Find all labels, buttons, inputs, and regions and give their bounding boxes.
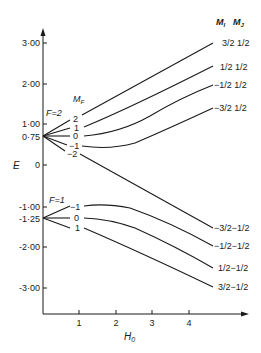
level-label: 1/2−1/2 (218, 263, 248, 273)
f2-label: F=2 (46, 108, 62, 118)
y-axis-arrow-icon (41, 28, 46, 36)
curve-mfm1 (82, 108, 213, 147)
level-label: 1/2 1/2 (220, 62, 248, 72)
level-label: −1/2 1/2 (214, 80, 247, 90)
x-axis-arrow-icon (241, 312, 249, 317)
x-tick-label: 3 (149, 318, 154, 328)
y-tick-labels: 3·00 2·00 1·00 0·75 0 -1·00 -1·25 -2·00 … (19, 38, 40, 293)
curve-mf2 (82, 43, 213, 115)
mj-header: MJ (233, 17, 245, 28)
mf-label: −1 (70, 202, 80, 212)
f2-fan (43, 120, 70, 151)
f1-fan (43, 206, 70, 228)
y-tick-label: 1·00 (22, 119, 40, 129)
y-ticks (43, 43, 47, 288)
y-tick-label: 2·00 (22, 79, 40, 89)
x-tick-label: 1 (76, 318, 81, 328)
x-ticks (79, 310, 189, 314)
y-tick-label: 0·75 (22, 132, 40, 142)
f1-mf-labels: −1 0 1 (70, 202, 80, 233)
x-tick-labels: 1 2 3 4 (76, 318, 191, 328)
f1-label: F=1 (49, 195, 65, 205)
y-tick-label: -1·00 (19, 202, 40, 212)
curve-mf1 (84, 66, 213, 127)
mf-label: −2 (67, 149, 77, 159)
upper-curves (80, 43, 213, 228)
y-tick-label: -2·00 (19, 242, 40, 252)
level-label: −1/2−1/2 (214, 241, 250, 251)
curve-f1-mf0 (84, 218, 213, 268)
x-axis-label: H0 (124, 331, 135, 343)
y-axis-label: E (13, 160, 20, 171)
energy-level-diagram: 3·00 2·00 1·00 0·75 0 -1·00 -1·25 -2·00 … (0, 0, 261, 353)
level-label: −3/2 1/2 (214, 103, 247, 113)
mf-header: MF (73, 94, 85, 105)
mf-label: 1 (75, 223, 80, 233)
y-tick-label: -3·00 (19, 283, 40, 293)
right-labels-upper: 3/2 1/2 1/2 1/2 −1/2 1/2 −3/2 1/2 (214, 38, 250, 113)
curve-mf0 (84, 85, 213, 136)
level-label: 3/2−1/2 (218, 282, 248, 292)
right-labels-lower: −3/2−1/2 −1/2−1/2 1/2−1/2 3/2−1/2 (214, 223, 250, 292)
x-tick-label: 2 (113, 318, 118, 328)
y-tick-label: 3·00 (22, 38, 40, 48)
level-label: 3/2 1/2 (222, 38, 250, 48)
y-tick-label: -1·25 (19, 214, 40, 224)
level-label: −3/2−1/2 (214, 223, 250, 233)
mi-header: MI (216, 17, 226, 28)
y-tick-label: 0 (35, 160, 40, 170)
mf-label: 0 (73, 131, 78, 141)
mf-label: 0 (74, 213, 79, 223)
curve-f1-mfm1 (84, 205, 213, 246)
curve-mfm2 (80, 154, 213, 228)
x-tick-label: 4 (186, 318, 191, 328)
